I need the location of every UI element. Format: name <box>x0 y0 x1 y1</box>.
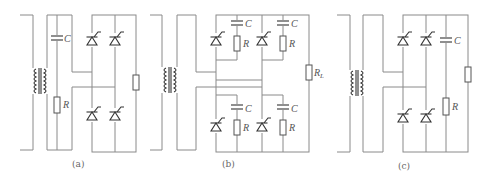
thyristor-icon <box>257 118 272 133</box>
resistor-label: R <box>451 101 458 112</box>
panel-b: C C C C R R R R RL (b) <box>150 15 324 169</box>
capacitor-label: C <box>245 18 252 29</box>
thyristor-icon <box>110 107 125 122</box>
thyristor-icon <box>421 109 436 124</box>
capacitor-label: C <box>291 18 298 29</box>
thyristor-icon <box>211 118 226 133</box>
panel-c: C R (c) <box>337 15 471 171</box>
resistor-icon <box>280 120 286 135</box>
thyristor-icon <box>398 109 413 124</box>
capacitor-icon <box>439 37 453 43</box>
load-resistor-icon <box>306 65 312 80</box>
thyristor-icon <box>87 107 102 122</box>
resistor-icon <box>234 120 240 135</box>
capacitor-label: C <box>454 35 461 46</box>
thyristor-icon <box>211 32 226 47</box>
resistor-icon <box>443 98 449 115</box>
thyristor-icon <box>87 32 102 47</box>
transformer-icon <box>346 70 367 96</box>
resistor-label: R <box>242 38 249 49</box>
capacitor-icon <box>276 104 290 110</box>
resistor-label: R <box>242 122 249 133</box>
thyristor-icon <box>257 32 272 47</box>
capacitor-icon <box>50 35 64 41</box>
thyristor-icon <box>398 32 413 47</box>
thyristor-icon <box>110 32 125 47</box>
load-resistor-icon <box>133 75 139 90</box>
load-resistor-icon <box>465 67 471 82</box>
rc-snubber-circuit-diagrams: C R (a) <box>0 0 486 180</box>
panel-caption-b: (b) <box>222 159 235 169</box>
transformer-icon <box>30 68 50 94</box>
capacitor-label: C <box>64 33 71 44</box>
capacitor-icon <box>230 20 244 26</box>
thyristor-icon <box>421 32 436 47</box>
resistor-label: R <box>62 99 69 110</box>
transformer-icon <box>159 67 180 93</box>
panel-a: C R (a) <box>20 15 139 169</box>
resistor-icon <box>280 36 286 51</box>
resistor-label: R <box>288 122 295 133</box>
panel-caption-c: (c) <box>398 161 410 171</box>
capacitor-icon <box>276 20 290 26</box>
load-label: RL <box>313 67 324 80</box>
resistor-icon <box>54 97 60 113</box>
panel-caption-a: (a) <box>72 159 84 169</box>
resistor-icon <box>234 36 240 51</box>
capacitor-label: C <box>245 103 252 114</box>
capacitor-icon <box>230 104 244 110</box>
resistor-label: R <box>288 38 295 49</box>
capacitor-label: C <box>291 103 298 114</box>
